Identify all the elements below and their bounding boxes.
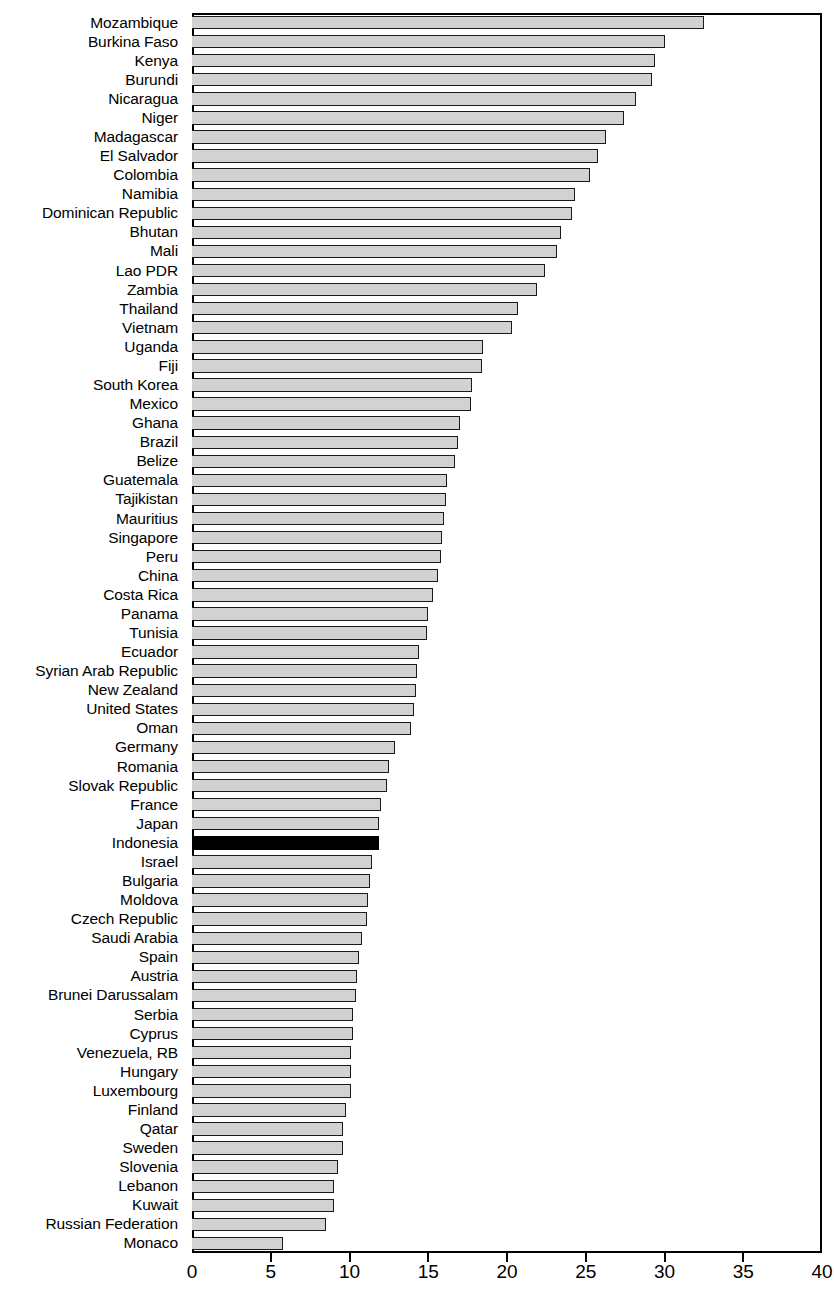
bar xyxy=(192,893,368,906)
category-label: Zambia xyxy=(127,282,178,298)
bar-row xyxy=(192,626,822,639)
bar-row xyxy=(192,149,822,162)
bar-row xyxy=(192,226,822,239)
category-label: Japan xyxy=(136,816,178,832)
bar xyxy=(192,664,417,677)
bar xyxy=(192,703,414,716)
x-tick-label: 10 xyxy=(339,1262,360,1281)
bar-row xyxy=(192,893,822,906)
bar-row xyxy=(192,73,822,86)
category-label: Niger xyxy=(141,110,178,126)
category-label: South Korea xyxy=(93,377,178,393)
bar xyxy=(192,207,572,220)
bar xyxy=(192,1084,351,1097)
bar xyxy=(192,1008,353,1021)
bar xyxy=(192,531,442,544)
category-label: Serbia xyxy=(134,1007,178,1023)
category-label: Mozambique xyxy=(90,15,178,31)
bar xyxy=(192,626,427,639)
category-label: Finland xyxy=(128,1102,178,1118)
bar xyxy=(192,188,575,201)
x-tick-label: 0 xyxy=(187,1262,198,1281)
category-label: Costa Rica xyxy=(103,587,178,603)
category-axis-labels: MozambiqueBurkina FasoKenyaBurundiNicara… xyxy=(0,13,186,1253)
category-label: New Zealand xyxy=(88,682,178,698)
bar xyxy=(192,912,367,925)
bar-row xyxy=(192,684,822,697)
bar xyxy=(192,970,357,983)
bar xyxy=(192,684,416,697)
category-label: Brunei Darussalam xyxy=(48,987,178,1003)
bar-row xyxy=(192,302,822,315)
bar xyxy=(192,1237,283,1250)
bar-row xyxy=(192,16,822,29)
category-label: Brazil xyxy=(140,434,178,450)
bar-row xyxy=(192,703,822,716)
bar-row xyxy=(192,874,822,887)
bar-row xyxy=(192,245,822,258)
category-label: Saudi Arabia xyxy=(91,930,178,946)
bar-row xyxy=(192,932,822,945)
bar-row xyxy=(192,130,822,143)
category-label: Oman xyxy=(136,720,178,736)
category-label: France xyxy=(130,797,178,813)
category-label: Guatemala xyxy=(103,472,178,488)
bar-row xyxy=(192,1141,822,1154)
bar xyxy=(192,16,704,29)
bar xyxy=(192,436,458,449)
bar xyxy=(192,397,471,410)
category-label: Belize xyxy=(136,453,178,469)
bar xyxy=(192,1160,338,1173)
bar-row xyxy=(192,1103,822,1116)
bar xyxy=(192,855,372,868)
category-label: Burkina Faso xyxy=(88,34,178,50)
bar-row xyxy=(192,168,822,181)
x-tick-label: 5 xyxy=(265,1262,276,1281)
bar xyxy=(192,168,590,181)
bar xyxy=(192,455,455,468)
bar xyxy=(192,73,652,86)
bar xyxy=(192,1199,334,1212)
bar-row xyxy=(192,1218,822,1231)
bar-row xyxy=(192,569,822,582)
bar xyxy=(192,569,438,582)
bar-row xyxy=(192,645,822,658)
bar xyxy=(192,245,557,258)
category-label: China xyxy=(138,568,178,584)
bar-row xyxy=(192,92,822,105)
bar xyxy=(192,493,446,506)
bar xyxy=(192,35,665,48)
category-label: Czech Republic xyxy=(71,911,178,927)
bar-row xyxy=(192,264,822,277)
bar-row xyxy=(192,836,822,849)
bar-row xyxy=(192,1122,822,1135)
bar-row xyxy=(192,283,822,296)
bar-row xyxy=(192,512,822,525)
bar xyxy=(192,54,655,67)
category-label: Slovak Republic xyxy=(68,778,178,794)
bar-row xyxy=(192,54,822,67)
category-label: Mexico xyxy=(130,396,179,412)
bar xyxy=(192,1103,346,1116)
category-label: Madagascar xyxy=(94,129,178,145)
category-label: Bhutan xyxy=(129,224,178,240)
bar-row xyxy=(192,1160,822,1173)
category-label: El Salvador xyxy=(100,148,178,164)
bar xyxy=(192,130,606,143)
bar xyxy=(192,932,362,945)
bar-row xyxy=(192,912,822,925)
category-label: Singapore xyxy=(108,530,178,546)
bar xyxy=(192,321,512,334)
bar xyxy=(192,798,381,811)
bar-row xyxy=(192,531,822,544)
category-label: Syrian Arab Republic xyxy=(35,663,178,679)
category-label: Nicaragua xyxy=(108,91,178,107)
bar xyxy=(192,149,598,162)
bar-row xyxy=(192,416,822,429)
x-axis-tick-labels: 0510152025303540 xyxy=(0,1262,834,1295)
category-label: Vietnam xyxy=(122,320,178,336)
bar-row xyxy=(192,1084,822,1097)
bar-row xyxy=(192,989,822,1002)
bar xyxy=(192,92,636,105)
category-label: Austria xyxy=(130,968,178,984)
